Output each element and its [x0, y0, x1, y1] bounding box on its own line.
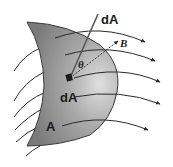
surface-a [27, 22, 118, 146]
area-element-label: dA [60, 90, 78, 105]
surface-label: A [46, 119, 56, 134]
angle-theta-label: θ [78, 58, 84, 70]
b-field-label: B [119, 37, 127, 49]
flux-diagram: dA B θ dA A [0, 0, 173, 167]
normal-vector-label: dA [101, 12, 119, 27]
